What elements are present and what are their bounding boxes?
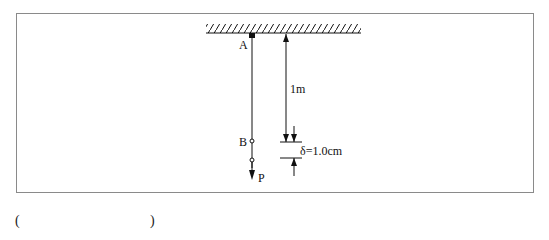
rod-diagram: [0, 0, 549, 240]
label-a: A: [239, 39, 248, 51]
answer-paren-open: (: [15, 214, 20, 228]
label-p: P: [258, 172, 265, 184]
fixed-support-a: [249, 33, 255, 38]
displacement-dimension: [280, 126, 302, 176]
label-displacement: δ=1.0cm: [300, 145, 342, 157]
answer-paren-close: ): [150, 214, 155, 228]
length-dimension: [283, 34, 289, 142]
label-b: B: [239, 136, 247, 148]
ceiling-support: [206, 24, 361, 33]
rod-end-marker: [250, 158, 254, 162]
point-b-marker: [250, 139, 254, 143]
label-length: 1m: [290, 83, 305, 95]
